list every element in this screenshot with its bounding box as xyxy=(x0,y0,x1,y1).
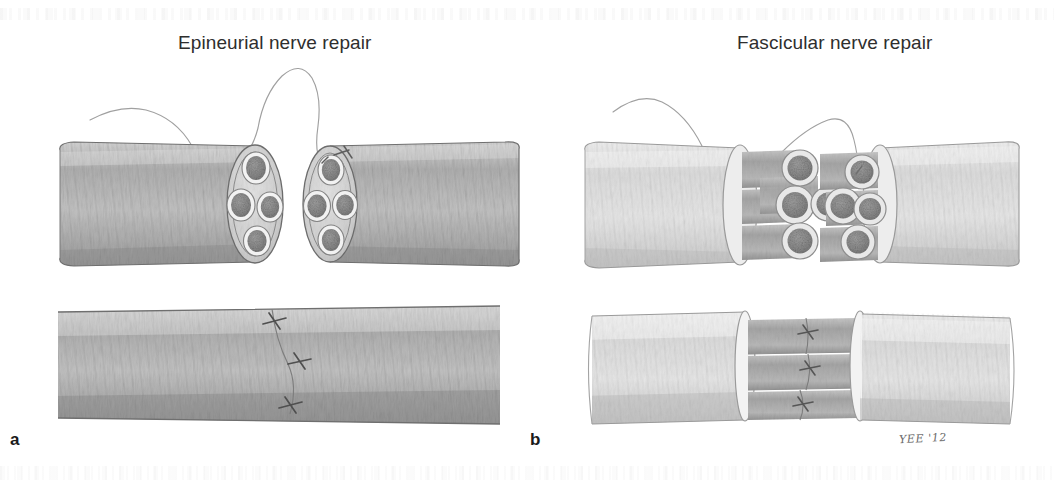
panel-b-label: b xyxy=(530,430,540,450)
panel-a-top-row xyxy=(50,68,535,280)
nerve-stump-a-left xyxy=(50,130,283,280)
panel-b-title: Fascicular nerve repair xyxy=(737,32,933,54)
fascicle-bundle-b-right xyxy=(820,152,886,262)
nerve-repair-illustration xyxy=(0,0,1054,486)
nerve-stump-b-right xyxy=(820,130,1035,280)
panel-a-title: Epineurial nerve repair xyxy=(178,32,371,54)
nerve-stump-b-left xyxy=(575,130,845,280)
panel-b-bottom-row xyxy=(585,305,1020,433)
nerve-stump-a-right xyxy=(303,130,535,280)
artist-signature: YEE '12 xyxy=(899,431,948,446)
nerve-repair-figure: Epineurial nerve repair Fascicular nerve… xyxy=(0,0,1054,486)
fascicle-bundle-1 xyxy=(748,318,858,354)
fascicle-bundle-2 xyxy=(748,354,858,390)
panel-a-label: a xyxy=(10,430,19,450)
panel-b-top-row xyxy=(575,99,1035,280)
panel-a-bottom-row xyxy=(50,300,510,430)
